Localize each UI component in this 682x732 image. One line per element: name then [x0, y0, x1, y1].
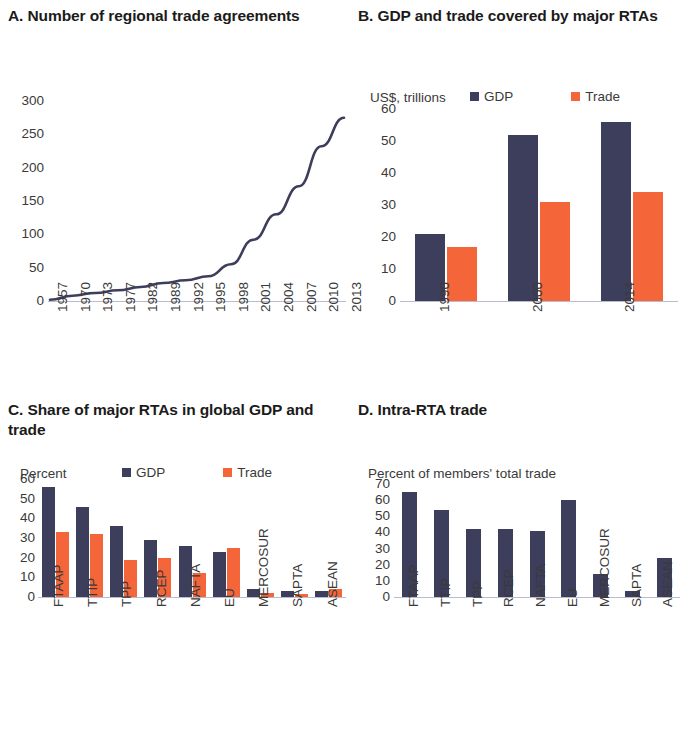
x-tick-label: RCEP	[155, 569, 169, 607]
y-tick-label: 10	[0, 570, 35, 584]
x-tick-label: 1989	[169, 282, 183, 312]
panel-c-legend-trade: Trade	[223, 465, 272, 480]
y-tick-label: 70	[330, 477, 390, 491]
panel-b-legend-trade: Trade	[571, 89, 620, 104]
y-tick-label: 20	[0, 551, 35, 565]
y-tick-label: 30	[330, 542, 390, 556]
gdp-swatch-icon	[122, 468, 131, 477]
panel-b-legend: GDP Trade	[470, 89, 620, 104]
y-tick-label: 50	[336, 134, 396, 148]
x-tick-label: 2001	[259, 282, 273, 312]
y-tick-label: 10	[336, 262, 396, 276]
panel-c-plot: Percent GDP Trade 0102030405060 FTAAPTTI…	[8, 462, 348, 730]
x-tick-label: 1992	[192, 282, 206, 312]
x-tick-label: SAPTA	[291, 564, 305, 607]
x-tick-label: TPP	[120, 581, 134, 607]
y-tick-label: 10	[330, 574, 390, 588]
panel-d-title: D. Intra-RTA trade	[358, 400, 668, 420]
panel-a-plot: 050100150200250300 195719701973197719821…	[8, 84, 348, 384]
trade-swatch-icon	[223, 468, 232, 477]
x-tick-label: EU	[566, 588, 580, 607]
x-tick-label: 2007	[305, 282, 319, 312]
gdp-swatch-icon	[470, 92, 479, 101]
x-tick-label: 1982	[146, 282, 160, 312]
panel-c-legend-trade-label: Trade	[237, 465, 272, 480]
x-tick-label: TPP	[471, 581, 485, 607]
bar-2000-gdp	[508, 135, 538, 301]
x-tick-label: FTAAP	[407, 564, 421, 607]
panel-c-legend-gdp-label: GDP	[136, 465, 165, 480]
y-tick-label: 60	[336, 102, 396, 116]
x-tick-label: 1957	[56, 282, 70, 312]
y-tick-label: 20	[336, 230, 396, 244]
x-tick-label: 2004	[282, 282, 296, 312]
y-tick-label: 0	[330, 590, 390, 604]
x-tick-label: 1990	[438, 282, 452, 312]
x-tick-label: TTIP	[86, 578, 100, 607]
x-tick-label: 1995	[214, 282, 228, 312]
panel-c-title: C. Share of major RTAs in global GDP and…	[8, 400, 338, 440]
panel-d-plot: Percent of members' total trade 01020304…	[358, 462, 682, 730]
x-tick-label: NAFTA	[189, 564, 203, 607]
panel-b: B. GDP and trade covered by major RTAs U…	[358, 6, 678, 386]
panel-a-title: A. Number of regional trade agreements	[8, 6, 333, 26]
y-tick-label: 0	[336, 294, 396, 308]
trade-swatch-icon	[571, 92, 580, 101]
panel-d-subtitle: Percent of members' total trade	[368, 466, 556, 481]
panel-b-legend-trade-label: Trade	[585, 89, 620, 104]
panel-b-legend-gdp: GDP	[470, 89, 513, 104]
x-tick-label: ASEAN	[661, 561, 675, 607]
panel-c-legend: GDP Trade	[122, 465, 272, 480]
y-tick-label: 60	[0, 472, 35, 486]
bar-2014-gdp	[601, 122, 631, 301]
panel-a-trend-line	[50, 118, 344, 300]
y-tick-label: 50	[330, 509, 390, 523]
y-tick-label: 50	[0, 492, 35, 506]
y-tick-label: 60	[330, 493, 390, 507]
x-tick-label: MERCOSUR	[257, 528, 271, 607]
figure-page: A. Number of regional trade agreements 0…	[0, 0, 682, 732]
panel-c-legend-gdp: GDP	[122, 465, 165, 480]
y-tick-label: 30	[336, 198, 396, 212]
bar-2014-trade	[633, 192, 663, 301]
y-tick-label: 40	[336, 166, 396, 180]
x-tick-label: 1973	[101, 282, 115, 312]
x-tick-label: 2014	[623, 282, 637, 312]
x-tick-label: 1998	[237, 282, 251, 312]
panel-a: A. Number of regional trade agreements 0…	[8, 6, 348, 386]
y-tick-label: 40	[330, 525, 390, 539]
panel-b-bars	[400, 109, 678, 301]
panel-b-plot: US$, trillions GDP Trade 0102030405060 1…	[358, 84, 678, 384]
x-tick-label: EU	[223, 588, 237, 607]
y-tick-label: 30	[0, 531, 35, 545]
x-tick-label: TTIP	[439, 578, 453, 607]
bar-eu-intra-rta-trade	[561, 500, 576, 597]
x-tick-label: SAPTA	[630, 564, 644, 607]
panel-d: D. Intra-RTA trade Percent of members' t…	[358, 400, 682, 730]
x-tick-label: 1977	[124, 282, 138, 312]
y-tick-label: 0	[0, 590, 35, 604]
panel-a-line-series	[8, 84, 348, 384]
x-tick-label: MERCOSUR	[598, 528, 612, 607]
y-tick-label: 40	[0, 511, 35, 525]
panel-b-title: B. GDP and trade covered by major RTAs	[358, 6, 663, 26]
x-tick-label: RCEP	[502, 569, 516, 607]
x-tick-label: 2000	[531, 282, 545, 312]
x-tick-label: 1970	[79, 282, 93, 312]
x-tick-label: NAFTA	[534, 564, 548, 607]
y-tick-label: 20	[330, 558, 390, 572]
x-tick-label: FTAAP	[52, 564, 66, 607]
panel-b-legend-gdp-label: GDP	[484, 89, 513, 104]
panel-c: C. Share of major RTAs in global GDP and…	[8, 400, 348, 730]
